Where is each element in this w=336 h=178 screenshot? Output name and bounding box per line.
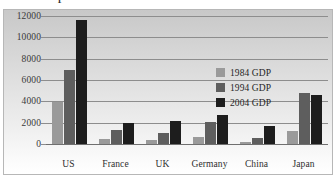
bar <box>311 95 322 144</box>
y-axis-tickmark <box>41 144 46 145</box>
x-axis-category-label: France <box>102 159 128 169</box>
y-axis-tick-label: 12000 <box>17 11 41 21</box>
bar <box>240 142 251 144</box>
chart-title-clipped: Comparison of GDP <box>0 0 336 7</box>
bar-group <box>140 16 187 144</box>
bar <box>264 126 275 144</box>
x-axis-category-label: US <box>62 159 74 169</box>
legend-item: 2004 GDP <box>216 96 300 109</box>
bar <box>146 140 157 144</box>
bar <box>287 131 298 144</box>
bar <box>76 20 87 144</box>
x-axis-category-label: Japan <box>292 159 314 169</box>
bar-group <box>46 16 93 144</box>
chart-title-text: Comparison of GDP <box>28 0 155 4</box>
bar <box>193 137 204 144</box>
x-axis-category-label: UK <box>156 159 170 169</box>
bar <box>99 139 110 144</box>
legend-label: 1984 GDP <box>230 68 271 78</box>
y-axis-tick-label: 4000 <box>22 96 41 106</box>
bar <box>64 70 75 144</box>
chart-screenshot: Comparison of GDP 0200040006000800010000… <box>0 0 336 178</box>
bar <box>299 93 310 144</box>
bar <box>252 138 263 144</box>
legend-label: 1994 GDP <box>230 83 271 93</box>
chart-legend: 1984 GDP1994 GDP2004 GDP <box>216 66 300 111</box>
x-axis-labels: USFranceUKGermanyChinaJapan <box>3 156 333 176</box>
plot-area: 020004000600080001000012000 1984 GDP1994… <box>4 10 332 174</box>
legend-swatch <box>216 98 225 107</box>
chart-frame: 020004000600080001000012000 1984 GDP1994… <box>3 9 333 175</box>
legend-swatch <box>216 68 225 77</box>
axis-baseline <box>46 144 328 145</box>
x-axis-category-label: Germany <box>191 159 227 169</box>
y-axis-labels: 020004000600080001000012000 <box>4 10 46 144</box>
legend-item: 1994 GDP <box>216 81 300 94</box>
bar <box>52 102 63 144</box>
bar <box>158 133 169 144</box>
bar <box>170 121 181 144</box>
bar <box>123 123 134 144</box>
bar-group <box>93 16 140 144</box>
legend-swatch <box>216 83 225 92</box>
y-axis-tick-label: 6000 <box>22 75 41 85</box>
x-axis-category-label: China <box>245 159 268 169</box>
bar <box>217 115 228 144</box>
y-axis-tick-label: 10000 <box>17 32 41 42</box>
y-axis-tick-label: 8000 <box>22 54 41 64</box>
legend-label: 2004 GDP <box>230 98 271 108</box>
bar <box>111 130 122 144</box>
y-axis-tick-label: 2000 <box>22 118 41 128</box>
legend-item: 1984 GDP <box>216 66 300 79</box>
bar <box>205 122 216 144</box>
